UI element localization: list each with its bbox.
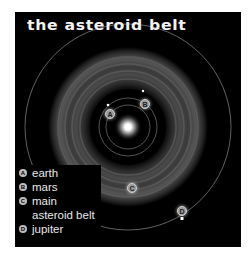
legend-item-main: C main: [19, 194, 57, 208]
badge-blank-icon: [19, 211, 27, 219]
earth-dot: [107, 104, 110, 107]
legend-label: earth: [32, 167, 58, 179]
legend-item-asteroid-belt: asteroid belt: [19, 208, 95, 222]
legend-label: asteroid belt: [32, 209, 95, 221]
badge-c-icon: C: [19, 197, 27, 205]
legend-item-mars: B mars: [19, 180, 58, 194]
legend-label: mars: [32, 181, 58, 193]
diagram-title: the asteroid belt: [27, 17, 187, 33]
badge-b-icon: B: [19, 183, 27, 191]
marker-earth: A: [105, 109, 115, 119]
badge-d-icon: D: [19, 225, 27, 233]
legend: A earth B mars C main asteroid belt D ju…: [15, 165, 101, 247]
legend-item-earth: A earth: [19, 166, 58, 180]
marker-jupiter: D: [177, 206, 187, 216]
asteroid-belt-diagram: the asteroid belt A B C D A earth B mars…: [15, 12, 241, 247]
legend-label: main: [32, 195, 57, 207]
badge-a-icon: A: [19, 169, 27, 177]
marker-main-belt: C: [127, 183, 137, 193]
legend-item-jupiter: D jupiter: [19, 222, 63, 236]
mars-dot: [142, 90, 144, 92]
legend-label: jupiter: [32, 223, 63, 235]
marker-mars: B: [140, 99, 150, 109]
jupiter-dot: [181, 217, 184, 220]
